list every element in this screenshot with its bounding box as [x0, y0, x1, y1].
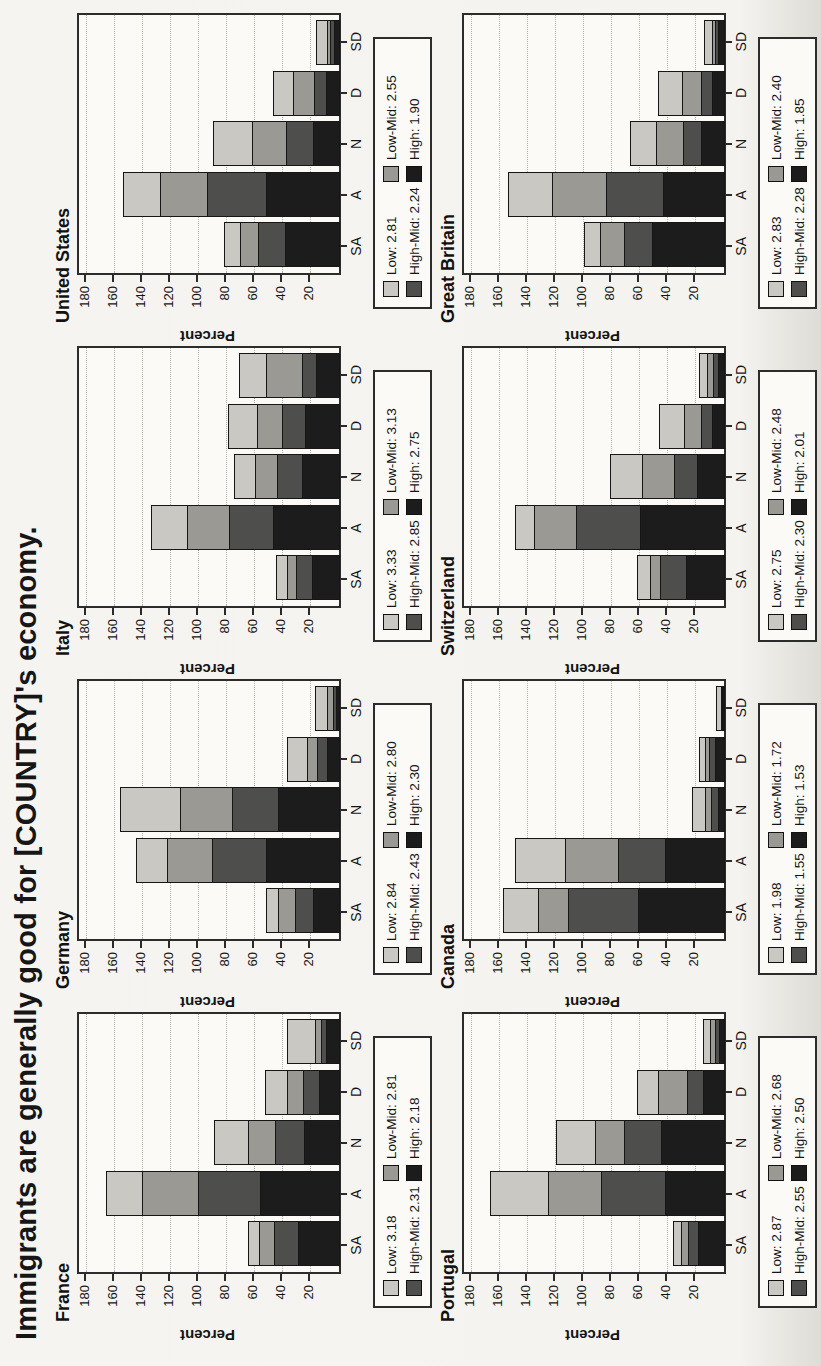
y-tick-label: 40	[659, 286, 672, 300]
y-tick-label: 60	[246, 1285, 259, 1299]
bar-segment-Low	[556, 1121, 597, 1166]
legend-swatch-icon	[383, 1165, 399, 1181]
bar-segment-High	[316, 354, 340, 399]
x-category: D	[726, 70, 749, 115]
legend-swatch-icon	[383, 166, 399, 182]
bar-segment-High-Mid	[624, 1121, 662, 1166]
bar-segment-High	[326, 71, 340, 116]
legend-item-Low: Low: 2.87	[768, 1181, 784, 1296]
bar-segment-High	[665, 838, 725, 883]
y-tick-mark	[280, 1274, 282, 1281]
y-tick-mark	[693, 608, 695, 615]
y-axis-title-text: Percent	[564, 994, 619, 1011]
bar-segment-High-Mid	[674, 455, 698, 500]
bar-segment-High	[701, 122, 725, 167]
y-axis-title-text: Percent	[179, 1327, 234, 1344]
plot-area	[77, 13, 341, 275]
y-tick-label: 40	[659, 1285, 672, 1299]
bars	[464, 1014, 724, 1272]
legend-label: Low: 3.18	[384, 1215, 399, 1274]
x-tick-label: N	[348, 1121, 364, 1166]
bar-segment-Low	[265, 1070, 289, 1115]
y-tick-mark	[665, 941, 667, 948]
y-tick-label: 180	[463, 619, 476, 641]
x-category: SA	[726, 557, 749, 602]
y-axis-title-text: Percent	[179, 994, 234, 1011]
bar-segment-High-Mid	[618, 838, 666, 883]
y-tick-mark	[196, 608, 198, 615]
bars	[79, 15, 339, 273]
y-tick-label: 120	[162, 619, 175, 641]
y-tick-mark	[280, 275, 282, 282]
bar-segment-High	[298, 1222, 340, 1267]
legend-label: Low: 3.33	[384, 549, 399, 608]
y-tick-label: 100	[190, 619, 203, 641]
legend-item-Low: Low: 3.33	[383, 515, 399, 630]
y-tick-mark	[140, 608, 142, 615]
y-tick-label: 20	[302, 286, 315, 300]
x-tick-label: N	[733, 1121, 749, 1166]
bar-segment-Low-Mid	[266, 354, 302, 399]
bar-segment-High	[319, 1070, 340, 1115]
x-tick-mark	[341, 374, 347, 376]
legend-swatch-icon	[406, 1280, 422, 1296]
legend-label: Low-Mid: 2.80	[384, 741, 399, 826]
bar-SA	[584, 223, 724, 268]
x-tick-mark	[341, 41, 347, 43]
bar-segment-Low	[658, 71, 683, 116]
y-tick-label: 180	[78, 952, 91, 974]
x-tick-mark	[341, 707, 347, 709]
x-category: A	[341, 1172, 364, 1217]
y-tick-label: 120	[162, 286, 175, 308]
legend-swatch-icon	[383, 499, 399, 515]
x-tick-mark	[341, 1244, 347, 1246]
legend-swatch-icon	[383, 1280, 399, 1296]
plot-row: Percent20406080100120140160180	[77, 675, 341, 1005]
x-tick-mark	[341, 194, 347, 196]
bar-segment-Low-Mid	[248, 1121, 276, 1166]
legend-label: High-Mid: 2.30	[792, 520, 807, 608]
legend-label: High-Mid: 2.85	[407, 520, 422, 608]
chart-title: Germany	[53, 675, 74, 989]
bar-segment-Low	[214, 1121, 249, 1166]
y-tick-label: 20	[687, 1285, 700, 1299]
x-category: D	[726, 1069, 749, 1114]
y-tick-mark	[224, 275, 226, 282]
legend-label: Low: 2.87	[769, 1215, 784, 1274]
bar-segment-High-Mid	[207, 172, 267, 217]
y-tick-label: 60	[631, 952, 644, 966]
y-tick-label: 120	[547, 619, 560, 641]
legend-swatch-icon	[768, 166, 784, 182]
x-tick-mark	[726, 860, 732, 862]
bar-segment-Low	[503, 889, 539, 934]
legend-item-High-Mid: High-Mid: 2.31	[406, 1181, 422, 1296]
x-tick-label: D	[348, 403, 364, 448]
x-tick-label: A	[733, 1172, 749, 1217]
x-tick-mark	[726, 245, 732, 247]
y-tick-mark	[168, 275, 170, 282]
x-tick-mark	[341, 1040, 347, 1042]
bar-segment-High-Mid	[282, 404, 306, 449]
x-tick-label: SD	[733, 19, 749, 64]
x-axis: SAANDSD	[726, 346, 749, 608]
y-tick-mark	[497, 275, 499, 282]
bar-segment-High	[266, 838, 340, 883]
legend-item-Low: Low: 3.18	[383, 1181, 399, 1296]
y-axis-title: Percent	[462, 327, 722, 345]
y-tick-mark	[609, 941, 611, 948]
bar-segment-High	[278, 788, 340, 833]
bar-segment-Low	[224, 223, 241, 268]
legend-item-High: High: 2.50	[791, 1046, 807, 1181]
y-tick-label: 140	[134, 952, 147, 974]
y-tick-mark	[224, 1274, 226, 1281]
y-tick-label: 180	[463, 1285, 476, 1307]
y-tick-mark	[525, 608, 527, 615]
bar-segment-High	[718, 354, 725, 399]
y-tick-mark	[497, 608, 499, 615]
bar-segment-High-Mid	[660, 556, 687, 601]
bar-segment-Low	[120, 788, 180, 833]
bar-segment-High-Mid	[258, 223, 286, 268]
x-tick-label: SA	[733, 1223, 749, 1268]
y-tick-mark	[252, 1274, 254, 1281]
y-tick-mark	[637, 275, 639, 282]
